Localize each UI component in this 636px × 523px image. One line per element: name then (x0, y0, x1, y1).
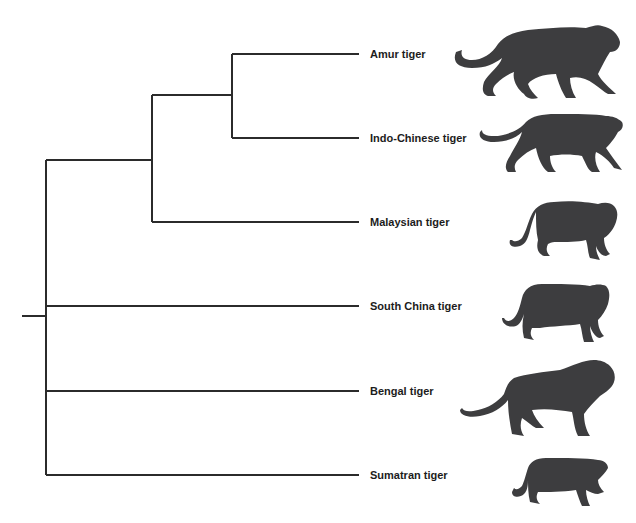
amur-tiger-silhouette-icon (452, 22, 632, 104)
malaysian-tiger-silhouette-icon (506, 198, 626, 264)
indo-chinese-tiger-silhouette-icon (476, 112, 632, 180)
label-sumatran-tiger: Sumatran tiger (370, 468, 448, 482)
label-bengal-tiger: Bengal tiger (370, 384, 434, 398)
bengal-tiger-silhouette-icon (456, 356, 632, 442)
label-indo-chinese-tiger: Indo-Chinese tiger (370, 131, 467, 145)
south-china-tiger-silhouette-icon (498, 282, 622, 348)
sumatran-tiger-silhouette-icon (506, 456, 622, 518)
label-amur-tiger: Amur tiger (370, 47, 426, 61)
label-south-china-tiger: South China tiger (370, 299, 462, 313)
label-malaysian-tiger: Malaysian tiger (370, 215, 449, 229)
